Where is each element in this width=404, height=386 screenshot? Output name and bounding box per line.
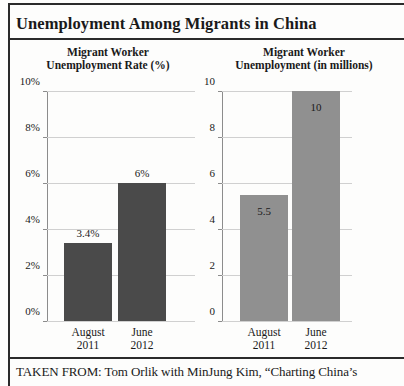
y-tick-label-6: 6% [25,168,40,179]
bar-value-august-2011: 3.4% [64,228,112,239]
x-tick-month: August [71,326,104,338]
y-tick-label-8: 8% [25,122,40,133]
chart-title-line-1: Migrant Worker [67,46,149,58]
y-tick-label-0: 0% [25,306,40,317]
plot-area-unemployment-millions: 0 2 4 6 8 10 5.5 10 August 2011 [222,91,352,322]
footer-divider [10,357,404,359]
plot-area-unemployment-rate: 0% 2% 4% 6% 8% 10% 3.4% 6% August 20 [47,91,195,322]
bar-august-2011 [64,243,112,321]
y-tick-4 [43,229,47,230]
chart-title-line-2: Unemployment (in millions) [206,59,402,72]
y-tick-label-2: 2% [25,260,40,271]
y-tick-0 [218,321,222,322]
gridline-0 [47,321,195,322]
y-tick-0 [43,321,47,322]
y-tick-label-4: 4% [25,214,40,225]
page-border-top [8,3,404,5]
y-axis-line [47,91,48,322]
y-tick-label-2: 2 [210,260,216,271]
chart-title-unemployment-millions: Migrant Worker Unemployment (in millions… [206,46,402,72]
bar-value-june-2012: 10 [292,102,340,113]
chart-title-unemployment-rate: Migrant Worker Unemployment Rate (%) [10,46,206,72]
y-tick-8 [218,137,222,138]
y-tick-label-0: 0 [210,306,216,317]
bar-june-2012 [118,183,166,321]
y-tick-2 [43,275,47,276]
y-tick-2 [218,275,222,276]
x-tick-label-june-2012: June 2012 [110,326,174,352]
y-axis-line [222,91,223,322]
title-divider [10,38,404,40]
x-tick-month: June [305,326,326,338]
y-tick-4 [218,229,222,230]
x-tick-year: 2012 [284,339,348,352]
y-tick-label-6: 6 [210,168,216,179]
y-tick-label-8: 8 [210,122,216,133]
x-tick-year: 2012 [110,339,174,352]
x-tick-label-june-2012: June 2012 [284,326,348,352]
y-tick-10 [43,91,47,92]
x-tick-month: June [131,326,152,338]
bar-value-august-2011: 5.5 [240,206,288,217]
y-tick-label-10: 10 [204,76,215,87]
chart-title-line-2: Unemployment Rate (%) [10,59,206,72]
gridline-10 [47,91,195,92]
gridline-0 [222,321,352,322]
y-tick-6 [43,183,47,184]
bar-june-2012 [292,91,340,321]
y-tick-10 [218,91,222,92]
y-tick-label-10: 10% [20,76,40,87]
y-tick-6 [218,183,222,184]
bar-value-june-2012: 6% [118,168,166,179]
chart-title-line-1: Migrant Worker [263,46,345,58]
gridline-8 [47,137,195,138]
x-tick-month: August [247,326,280,338]
source-caption: TAKEN FROM: Tom Orlik with MinJung Kim, … [16,364,357,380]
page-title: Unemployment Among Migrants in China [16,14,317,34]
y-tick-label-4: 4 [210,214,216,225]
figure-page: Unemployment Among Migrants in China Mig… [0,0,404,386]
y-tick-8 [43,137,47,138]
